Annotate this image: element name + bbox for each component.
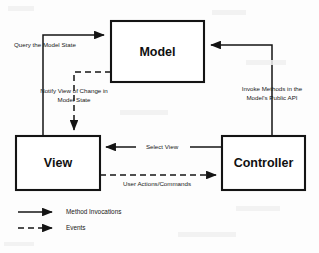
edge-label-invoke-methods-line1: Invoke Methods in the xyxy=(242,85,303,92)
edge-label-notify-view-line1: Notify View of Change in xyxy=(40,87,108,94)
node-view[interactable]: View xyxy=(16,136,100,190)
legend-label-method-invocations: Method Invocations xyxy=(66,208,121,215)
controller-label: Controller xyxy=(234,156,294,170)
edge-label-invoke-methods-line2: Model's Public API xyxy=(246,94,297,101)
model-label: Model xyxy=(139,45,175,59)
node-controller[interactable]: Controller xyxy=(222,136,305,190)
legend-label-events: Events xyxy=(66,224,86,231)
mvc-diagram: Model View Controller Query the Model St… xyxy=(0,0,319,253)
diagram-canvas: Model View Controller Query the Model St… xyxy=(0,0,319,253)
node-model[interactable]: Model xyxy=(111,21,204,82)
legend-item-method-invocations: Method Invocations xyxy=(18,208,121,215)
legend: Method Invocations Events xyxy=(18,208,121,231)
edge-label-select-view: Select View xyxy=(146,143,179,150)
edge-label-user-actions-commands: User Actions/Commands xyxy=(123,180,191,187)
edge-label-query-model-state: Query the Model State xyxy=(14,41,76,48)
view-label: View xyxy=(44,156,73,170)
edge-label-notify-view-line2: Model State xyxy=(57,96,91,103)
legend-item-events: Events xyxy=(18,224,86,231)
